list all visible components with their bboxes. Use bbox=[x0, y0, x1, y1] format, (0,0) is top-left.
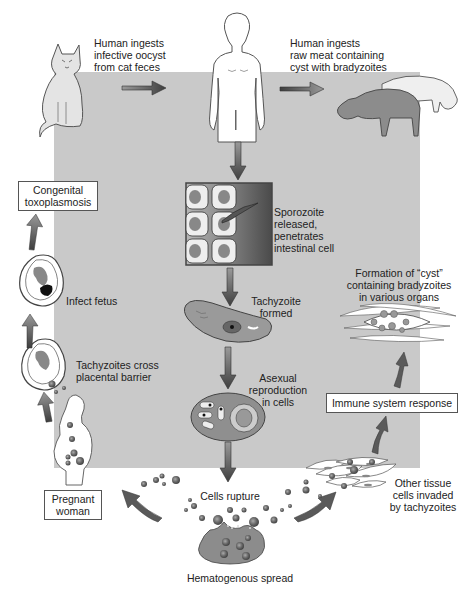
label-line: intestinal cell bbox=[274, 242, 334, 254]
infected-cell-icon bbox=[190, 392, 266, 442]
label-line: by tachyzoites bbox=[383, 501, 463, 513]
label-line: Sporozoite bbox=[274, 206, 334, 218]
arrow-down-icon bbox=[220, 347, 236, 389]
label-line: Formation of “cyst” bbox=[340, 267, 458, 279]
pigs-icon bbox=[334, 72, 459, 142]
arrow-up-icon bbox=[22, 314, 38, 348]
label-line: Congenital bbox=[23, 184, 93, 196]
curved-arrow-left-icon bbox=[118, 488, 164, 524]
label-line: raw meat containing bbox=[290, 49, 387, 61]
other-tissue-label: Other tissue cells invaded by tachyzoite… bbox=[383, 477, 463, 513]
label-line: woman bbox=[49, 505, 97, 517]
curved-arrow-up-icon bbox=[392, 352, 412, 388]
pregnant-woman-icon bbox=[46, 395, 106, 487]
label-line: in various organs bbox=[340, 291, 458, 303]
hematogenous-spread-label: Hematogenous spread bbox=[180, 572, 300, 584]
label-line: placental barrier bbox=[76, 371, 159, 383]
label-line: infective oocyst bbox=[94, 49, 166, 61]
curved-arrow-up-icon bbox=[370, 416, 392, 454]
pregnant-woman-box: Pregnant woman bbox=[44, 490, 102, 520]
tissue-cyst-icon bbox=[340, 300, 456, 346]
label-line: Asexual bbox=[246, 372, 310, 384]
label-line: Tachyzoite bbox=[246, 295, 306, 307]
tachyzoite-label: Tachyzoite formed bbox=[246, 295, 306, 319]
label-line: Pregnant bbox=[49, 493, 97, 505]
arrow-right-icon bbox=[120, 80, 168, 96]
cyst-formation-label: Formation of “cyst” containing bradyzoit… bbox=[340, 267, 458, 303]
label-line: Human ingests bbox=[290, 37, 387, 49]
meat-cyst-label: Human ingests raw meat containing cyst w… bbox=[290, 37, 387, 73]
label-line: cells invaded bbox=[383, 489, 463, 501]
congenital-toxoplasmosis-box: Congenital toxoplasmosis bbox=[18, 181, 98, 211]
label-line: Tachyzoites cross bbox=[76, 359, 159, 371]
arrow-left-icon bbox=[278, 81, 326, 97]
label-line: from cat feces bbox=[94, 61, 166, 73]
immune-response-box: Immune system response bbox=[326, 393, 458, 413]
cat-oocyst-label: Human ingests infective oocyst from cat … bbox=[94, 37, 166, 73]
placental-barrier-label: Tachyzoites cross placental barrier bbox=[76, 359, 159, 383]
label-line: Human ingests bbox=[94, 37, 166, 49]
label-line: penetrates bbox=[274, 230, 334, 242]
label-line: containing bradyzoites bbox=[340, 279, 458, 291]
label-line: released, bbox=[274, 218, 334, 230]
sporozoite-label: Sporozoite released, penetrates intestin… bbox=[274, 206, 334, 254]
label-line: toxoplasmosis bbox=[23, 196, 93, 208]
label-line: formed bbox=[246, 307, 306, 319]
human-figure-icon bbox=[202, 12, 272, 142]
arrow-up-icon bbox=[26, 214, 42, 250]
cat-icon bbox=[36, 42, 96, 137]
fetus-infected-icon bbox=[16, 254, 72, 314]
arrow-down-icon bbox=[220, 442, 236, 482]
hematogenous-vessel-icon bbox=[190, 500, 290, 570]
label-line: Other tissue bbox=[383, 477, 463, 489]
intestinal-cells-icon bbox=[186, 183, 272, 265]
arrow-down-icon bbox=[230, 142, 246, 180]
infect-fetus-label: Infect fetus bbox=[66, 295, 117, 307]
